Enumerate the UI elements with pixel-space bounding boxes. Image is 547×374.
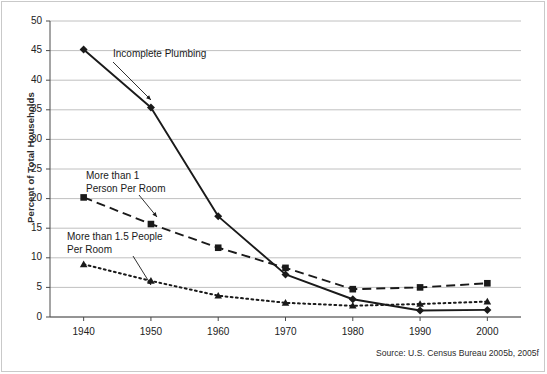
y-tick-label-45: 45 (14, 44, 42, 55)
x-tick-label-1940: 1940 (59, 326, 109, 337)
data-point-1-2 (215, 244, 222, 251)
y-tick-label-0: 0 (14, 311, 42, 322)
y-tick-label-10: 10 (14, 251, 42, 262)
annotation-incomplete-plumbing: Incomplete Plumbing (113, 48, 206, 61)
data-point-1-0 (80, 194, 87, 201)
x-tick-label-1970: 1970 (261, 326, 311, 337)
x-tick-label-1950: 1950 (126, 326, 176, 337)
data-point-1-3 (282, 265, 289, 272)
data-point-1-6 (484, 280, 491, 287)
y-tick-label-35: 35 (14, 103, 42, 114)
x-tick-label-1990: 1990 (395, 326, 445, 337)
data-point-2-0 (80, 261, 88, 268)
leader-line-incomplete-plumbing (113, 62, 151, 100)
data-point-0-6 (483, 306, 491, 314)
annotation-more-than-1-5-people: More than 1.5 People Per Room (67, 231, 163, 256)
data-point-0-5 (416, 306, 424, 314)
x-tick-label-1960: 1960 (193, 326, 243, 337)
y-tick-label-30: 30 (14, 133, 42, 144)
y-tick-label-5: 5 (14, 281, 42, 292)
y-tick-label-40: 40 (14, 74, 42, 85)
y-tick-label-15: 15 (14, 222, 42, 233)
leader-line-more-than-1-5-people (133, 256, 151, 285)
chart-plot-area (0, 0, 547, 374)
y-tick-label-25: 25 (14, 163, 42, 174)
data-point-1-1 (148, 221, 155, 228)
annotation-more-than-1-person: More than 1 Person Per Room (86, 170, 165, 195)
x-tick-label-2000: 2000 (462, 326, 512, 337)
y-tick-label-50: 50 (14, 15, 42, 26)
x-tick-label-1980: 1980 (328, 326, 378, 337)
data-point-1-4 (349, 286, 356, 293)
data-point-1-5 (417, 284, 424, 291)
y-tick-label-20: 20 (14, 192, 42, 203)
chart-figure: Percent of Total Households 051015202530… (0, 0, 547, 374)
source-note: Source: U.S. Census Bureau 2005b, 2005f (376, 348, 539, 358)
